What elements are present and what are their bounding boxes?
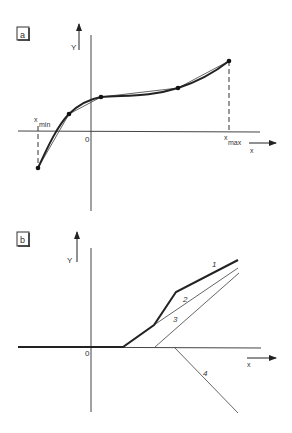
node-point (176, 86, 181, 91)
x-min-sub: min (39, 121, 50, 128)
panel-a-origin: 0 (85, 135, 90, 144)
line-2-label: 2 (182, 295, 188, 304)
panel-a-x-label: x (250, 147, 254, 154)
panel-b-origin: 0 (85, 349, 90, 358)
node-point (227, 59, 232, 64)
piecewise-linear-approx (38, 61, 229, 168)
panel-b: b Y 0 x 1 2 3 4 (17, 232, 276, 413)
line-4-label: 4 (203, 369, 208, 378)
node-point (99, 95, 104, 100)
panel-a-x-axis (18, 131, 260, 132)
line-2 (154, 268, 238, 325)
panel-a: a Y 0 x x min x max (17, 24, 276, 211)
panel-b-y-label: Y (67, 256, 73, 265)
x-min-label: x (34, 116, 38, 123)
panel-b-x-label: x (247, 361, 251, 368)
line-3-label: 3 (173, 315, 178, 324)
node-point (67, 112, 72, 117)
panel-a-y-label: Y (71, 43, 77, 52)
x-max-sub: max (228, 139, 242, 146)
line-1-label: 1 (212, 260, 216, 269)
figure-canvas: a Y 0 x x min x max b (0, 0, 292, 433)
line-4 (174, 347, 238, 413)
line-3 (155, 273, 239, 347)
smooth-curve (38, 61, 229, 168)
node-point (36, 166, 41, 171)
panel-b-tag: b (20, 235, 25, 245)
panel-a-tag: a (20, 30, 25, 40)
